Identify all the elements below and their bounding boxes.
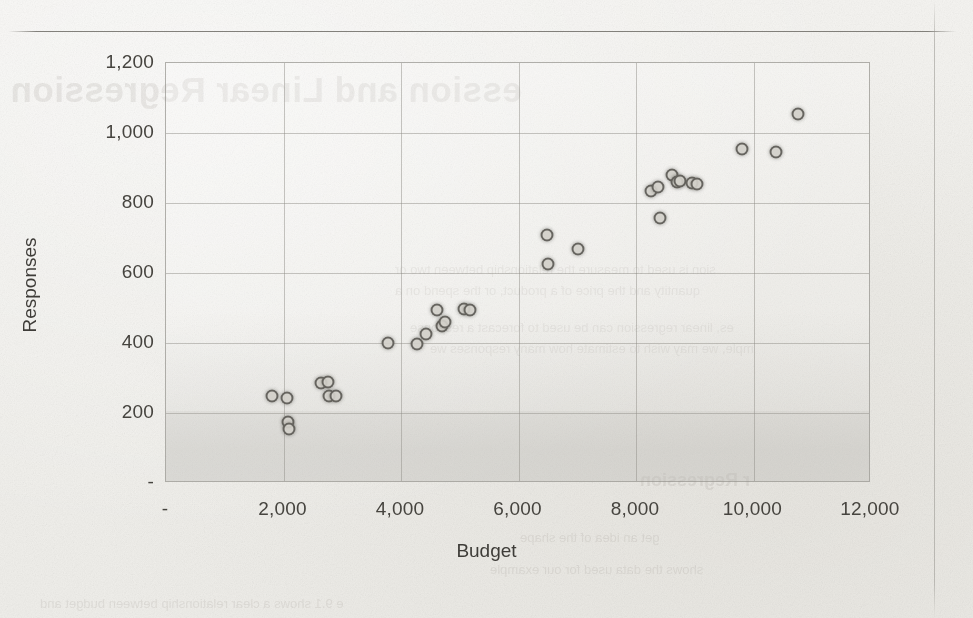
data-point-marker [281,391,294,404]
gridline-horizontal [166,273,869,274]
data-point-marker [431,303,444,316]
data-point-marker [572,242,585,255]
gridline-vertical [754,63,755,481]
data-point-marker [653,212,666,225]
data-point-marker [265,390,278,403]
y-axis-tick-label: 800 [68,191,154,213]
data-point-marker [382,337,395,350]
x-axis-tick-label: 12,000 [815,498,925,520]
gridline-horizontal [166,133,869,134]
data-point-marker [542,258,555,271]
plot-area [165,62,870,482]
x-axis-tick-label: 8,000 [580,498,690,520]
gridline-horizontal [166,343,869,344]
data-point-marker [330,389,343,402]
data-point-marker [792,107,805,120]
y-axis-tick-label: 1,000 [68,121,154,143]
scatter-chart: -2004006008001,0001,200 -2,0004,0006,000… [0,0,973,618]
y-axis-title: Responses [19,205,41,365]
data-point-marker [691,177,704,190]
data-point-marker [419,328,432,341]
x-axis-title: Budget [0,540,973,562]
plot-shadow-band [166,411,869,481]
gridline-horizontal [166,203,869,204]
x-axis-tick-label: 4,000 [345,498,455,520]
data-point-marker [540,228,553,241]
y-axis-tick-label: 1,200 [68,51,154,73]
x-axis-tick-label: 10,000 [698,498,808,520]
gridline-vertical [636,63,637,481]
data-point-marker [282,422,295,435]
data-point-marker [464,303,477,316]
data-point-marker [735,142,748,155]
data-point-marker [322,375,335,388]
gridline-vertical [519,63,520,481]
y-axis-tick-label: 600 [68,261,154,283]
x-axis-tick-labels: -2,0004,0006,0008,00010,00012,000 [0,498,973,528]
data-point-marker [674,175,687,188]
gridline-vertical [401,63,402,481]
data-point-marker [652,181,665,194]
gridline-horizontal [166,413,869,414]
data-point-marker [439,316,452,329]
y-axis-tick-label: 400 [68,331,154,353]
x-axis-tick-label: - [110,498,220,520]
x-axis-tick-label: 6,000 [463,498,573,520]
y-axis-tick-label: 200 [68,401,154,423]
y-axis-tick-label: - [68,471,154,493]
data-point-marker [769,146,782,159]
x-axis-tick-label: 2,000 [228,498,338,520]
